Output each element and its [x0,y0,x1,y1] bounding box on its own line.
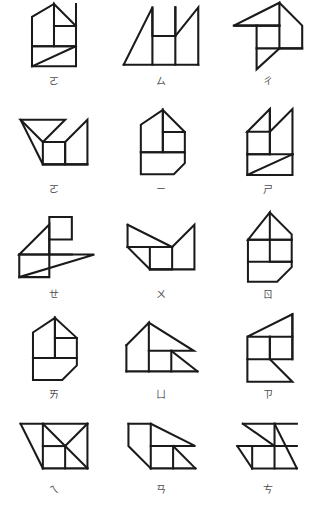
figure-label: ㄛ [49,76,59,88]
figure-grid: ㄛ ㄙ [0,0,322,521]
figure-label: ㄙ [156,76,166,88]
figure-label: ㄕ [263,184,273,196]
figure-cell-8[interactable]: ㄨ [107,209,214,309]
figure-label: ㄞ [49,389,59,401]
tangram-figure-4-svg [15,113,93,173]
tangram-figure-13-svg [15,420,93,474]
tangram-figure-9 [215,209,322,287]
tangram-figure-4 [0,104,107,182]
tangram-figure-11 [107,309,214,387]
figure-label: ㄢ [156,484,166,496]
figure-cell-14[interactable]: ㄢ [107,412,214,507]
tangram-figure-6-svg [236,105,300,181]
tangram-figure-15-svg [231,420,305,474]
figure-label: ㄟ [49,484,59,496]
figure-cell-1[interactable]: ㄛ [0,0,107,104]
tangram-figure-9-svg [237,208,299,288]
figure-cell-12[interactable]: ㄗ [215,309,322,412]
tangram-figure-10-svg [22,309,86,387]
tangram-figure-14 [107,412,214,482]
tangram-figure-7 [0,209,107,287]
tangram-figure-7-svg [8,213,100,283]
tangram-figure-10 [0,309,107,387]
tangram-figure-14-svg [121,420,201,474]
tangram-figure-11-svg [118,319,204,377]
tangram-figure-3 [215,0,322,74]
figure-label: ㄨ [156,289,166,301]
tangram-figure-3-svg [230,0,306,76]
tangram-figure-8-svg [122,219,200,277]
figure-cell-4[interactable]: ㄛ [0,104,107,209]
figure-cell-2[interactable]: ㄙ [107,0,214,104]
figure-label: ㄩ [156,389,166,401]
figure-cell-3[interactable]: ㄔ [215,0,322,104]
figure-cell-7[interactable]: ㄝ [0,209,107,309]
figure-cell-9[interactable]: ㄖ [215,209,322,309]
figure-cell-11[interactable]: ㄩ [107,309,214,412]
figure-cell-6[interactable]: ㄕ [215,104,322,209]
tangram-figure-2 [107,0,214,74]
tangram-figure-13 [0,412,107,482]
figure-cell-5[interactable]: ㄧ [107,104,214,209]
tangram-figure-6 [215,104,322,182]
tangram-figure-8 [107,209,214,287]
figure-cell-15[interactable]: ㄘ [215,412,322,507]
figure-label: ㄛ [49,184,59,196]
figure-cell-13[interactable]: ㄟ [0,412,107,507]
tangram-figure-2-svg [118,1,204,73]
figure-label: ㄘ [263,484,273,496]
figure-cell-10[interactable]: ㄞ [0,309,107,412]
figure-label: ㄗ [263,389,273,401]
tangram-grid-sheet: ㄛ ㄙ [0,0,322,521]
tangram-figure-15 [215,412,322,482]
figure-label: ㄖ [263,289,273,301]
tangram-figure-1-svg [21,0,87,75]
figure-label: ㄝ [49,289,59,301]
tangram-figure-12-svg [238,310,298,386]
tangram-figure-1 [0,0,107,74]
figure-label: ㄔ [263,76,273,88]
figure-label: ㄧ [156,184,166,196]
tangram-figure-5-svg [128,105,194,181]
tangram-figure-12 [215,309,322,387]
tangram-figure-5 [107,104,214,182]
